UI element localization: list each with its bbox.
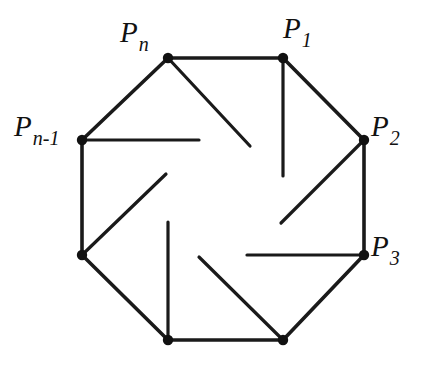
polygon-edge <box>283 255 364 340</box>
vertex-dot <box>278 53 288 63</box>
polygon-edge <box>283 58 364 140</box>
octagon-diagram <box>0 0 422 366</box>
vertex-label-p-n-minus-1: Pn-1 <box>14 112 58 141</box>
vertex-dot <box>359 250 369 260</box>
polygon-edge <box>82 58 168 140</box>
vertex-label-subscript: 1 <box>302 29 312 51</box>
polygon-edge <box>82 255 168 340</box>
polygon-figure: PnP1P2P3Pn-1 <box>0 0 422 366</box>
vertex-label-base: P <box>371 110 389 142</box>
vertex-label-subscript: 3 <box>390 247 400 269</box>
interior-spoke <box>82 174 166 255</box>
vertex-label-base: P <box>120 16 138 48</box>
interior-spoke <box>281 140 364 223</box>
vertex-dot <box>77 250 87 260</box>
vertex-dot <box>163 335 173 345</box>
vertex-dot <box>77 135 87 145</box>
vertex-label-p-3: P3 <box>371 232 399 261</box>
vertex-label-subscript: 2 <box>390 127 400 149</box>
vertex-label-p-n: Pn <box>120 18 148 47</box>
vertex-label-base: P <box>283 12 301 44</box>
vertex-dot <box>359 135 369 145</box>
vertex-label-p-2: P2 <box>371 112 399 141</box>
vertex-label-p-1: P1 <box>283 14 311 43</box>
vertex-label-subscript: n-1 <box>33 127 60 149</box>
polygon-edges-group <box>82 58 364 340</box>
polygon-vertices-group <box>77 53 369 345</box>
vertex-label-base: P <box>371 230 389 262</box>
vertex-dot <box>163 53 173 63</box>
vertex-label-subscript: n <box>139 33 149 55</box>
vertex-label-base: P <box>14 110 32 142</box>
interior-spoke <box>168 58 250 146</box>
vertex-dot <box>278 335 288 345</box>
interior-spoke <box>199 257 283 340</box>
